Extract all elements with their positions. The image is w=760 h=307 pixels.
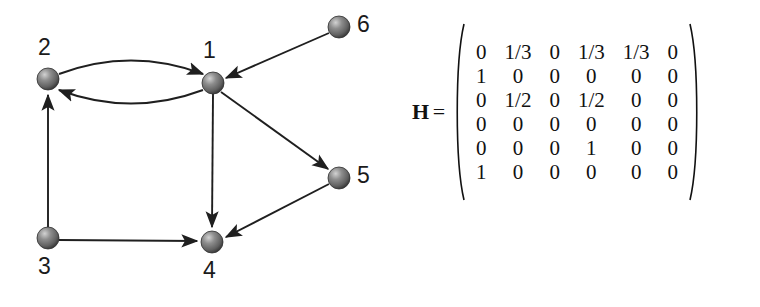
edge-1-to-2 [59, 90, 203, 104]
matrix-cell: 0 [659, 88, 688, 112]
graph-node-label-3: 3 [38, 255, 51, 278]
matrix-cell: 0 [467, 112, 496, 136]
directed-graph-panel: 1 2 3 4 5 6 [0, 0, 400, 307]
matrix-cell: 0 [614, 160, 659, 184]
matrix-row: 0 0 0 0 0 0 [467, 112, 687, 136]
matrix-cell: 1/2 [496, 88, 541, 112]
graph-nodes [37, 16, 350, 253]
graph-node-6[interactable] [328, 16, 350, 38]
edge-1-to-5 [221, 92, 328, 169]
graph-node-label-5: 5 [357, 164, 370, 187]
graph-node-4[interactable] [201, 231, 223, 253]
equals-sign: = [433, 99, 451, 125]
matrix-cell: 0 [659, 112, 688, 136]
matrix-cell: 0 [540, 88, 569, 112]
graph-node-label-6: 6 [357, 13, 370, 36]
matrix-cell: 0 [659, 136, 688, 160]
graph-svg [0, 0, 400, 307]
matrix-row: 0 1/2 0 1/2 0 0 [467, 88, 687, 112]
matrix-cell: 0 [467, 88, 496, 112]
left-parenthesis [451, 22, 467, 202]
edge-6-to-1 [226, 33, 329, 78]
matrix-cell: 0 [614, 136, 659, 160]
right-parenthesis [687, 22, 703, 202]
matrix-cell: 1/3 [496, 40, 541, 64]
matrix-row: 0 1/3 0 1/3 1/3 0 [467, 40, 687, 64]
matrix-row: 0 0 0 1 0 0 [467, 136, 687, 160]
graph-node-5[interactable] [328, 167, 350, 189]
matrix-cell: 0 [540, 40, 569, 64]
matrix-cell: 0 [614, 112, 659, 136]
edge-3-to-4 [59, 240, 197, 241]
matrix-cell: 0 [496, 112, 541, 136]
matrix-cell: 0 [659, 160, 688, 184]
matrix-cell: 1 [467, 64, 496, 88]
matrix-name-label: H [412, 99, 433, 125]
matrix-cell: 0 [569, 112, 614, 136]
graph-node-label-2: 2 [38, 36, 51, 59]
matrix-cell: 1 [467, 160, 496, 184]
matrix-cell: 1/3 [614, 40, 659, 64]
matrix-panel: H = 0 1/3 0 1/3 1/3 0 [400, 0, 760, 307]
matrix-cell: 0 [540, 136, 569, 160]
matrix-cell: 0 [540, 112, 569, 136]
figure-canvas: 1 2 3 4 5 6 H = 0 1/3 0 1/3 [0, 0, 760, 307]
matrix-cell: 1/2 [569, 88, 614, 112]
matrix-cell: 0 [496, 160, 541, 184]
matrix-values-table: 0 1/3 0 1/3 1/3 0 1 0 0 0 0 0 [467, 40, 687, 184]
matrix-cell: 0 [659, 40, 688, 64]
matrix-cell: 0 [540, 64, 569, 88]
matrix-cell: 0 [467, 40, 496, 64]
matrix-cell: 0 [569, 160, 614, 184]
graph-node-2[interactable] [37, 68, 59, 90]
edge-1-to-4 [212, 94, 213, 227]
edge-2-to-1 [59, 61, 203, 75]
matrix-cell: 0 [496, 64, 541, 88]
graph-node-label-4: 4 [203, 259, 216, 282]
matrix-row: 1 0 0 0 0 0 [467, 160, 687, 184]
matrix-cell: 1 [569, 136, 614, 160]
graph-edges [48, 33, 329, 241]
matrix-row: 1 0 0 0 0 0 [467, 64, 687, 88]
matrix-cell: 0 [540, 160, 569, 184]
matrix-cell: 0 [467, 136, 496, 160]
matrix-cell: 0 [614, 64, 659, 88]
graph-node-3[interactable] [37, 227, 59, 249]
matrix-equation: H = 0 1/3 0 1/3 1/3 0 [412, 22, 703, 202]
matrix-cell: 0 [496, 136, 541, 160]
matrix-cell: 0 [614, 88, 659, 112]
matrix-cell: 1/3 [569, 40, 614, 64]
edge-5-to-4 [226, 184, 329, 237]
graph-node-1[interactable] [202, 72, 224, 94]
matrix-cell: 0 [659, 64, 688, 88]
matrix-cell: 0 [569, 64, 614, 88]
graph-node-label-1: 1 [203, 39, 216, 62]
